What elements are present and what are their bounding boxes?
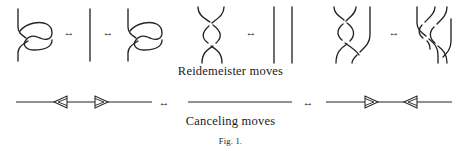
knot-diagram-r1-left-kink: [12, 7, 64, 63]
equivalence-arrow-2: ↔: [101, 27, 115, 38]
canceling-label: Canceling moves: [0, 114, 461, 129]
knot-diagram-r1-right-kink: [122, 7, 174, 63]
knot-diagram-r3-left: [326, 5, 380, 65]
arrowhead-left-pointing: [54, 96, 67, 108]
canceling-left-line: [14, 94, 154, 110]
figure-container: ↔ ↔ ↔: [0, 0, 461, 151]
knot-diagram-r2-parallel: [266, 5, 300, 65]
equivalence-arrow-5: ↔: [157, 97, 171, 108]
arrowhead-right-pointing: [365, 96, 378, 108]
canceling-right-line: [324, 94, 454, 110]
equivalence-arrow-6: ↔: [301, 97, 315, 108]
equivalence-arrow-1: ↔: [62, 27, 76, 38]
arrowhead-right-pointing: [95, 96, 108, 108]
knot-diagram-r3-right: [409, 5, 461, 65]
figure-number: Fig. 1.: [0, 136, 461, 146]
canceling-middle-line: [186, 94, 294, 110]
knot-diagram-r2-bigon: [190, 5, 238, 65]
reidemeister-label: Reidemeister moves: [0, 64, 461, 79]
knot-diagram-r1-strand: [85, 7, 95, 63]
equivalence-arrow-3: ↔: [244, 27, 258, 38]
arrowhead-left-pointing: [404, 96, 417, 108]
equivalence-arrow-4: ↔: [387, 27, 401, 38]
